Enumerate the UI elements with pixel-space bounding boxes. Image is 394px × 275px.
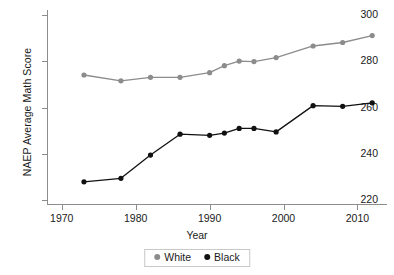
legend-marker-dot-icon [154,254,160,260]
y-tick-label-260: 260 [344,101,378,113]
y-axis-line [47,10,48,205]
x-tick-mark [284,205,285,210]
x-tick-mark [62,205,63,210]
y-tick-mark [42,200,47,201]
x-axis-line [47,204,387,205]
legend-item-white[interactable]: White [154,252,191,263]
plot-area: 220240260280300 19701980199020002010 [47,10,387,205]
y-axis-label: NAEP Average Math Score [21,17,33,207]
x-tick-label-2010: 2010 [334,212,380,224]
x-tick-label-1990: 1990 [187,212,233,224]
x-tick-mark [136,205,137,210]
y-tick-mark [42,61,47,62]
y-tick-mark [42,15,47,16]
y-tick-label-220: 220 [344,193,378,205]
legend-marker-dot-icon [204,254,210,260]
x-axis-label: Year [0,229,394,241]
y-tick-mark [42,154,47,155]
naep-math-score-line-chart: NAEP Average Math Score 220240260280300 … [0,0,394,275]
chart-legend: WhiteBlack [144,249,250,267]
x-tick-label-1980: 1980 [113,212,159,224]
x-tick-mark [357,205,358,210]
y-tick-mark [42,108,47,109]
y-tick-label-280: 280 [344,54,378,66]
legend-label: White [164,252,191,263]
x-tick-mark [210,205,211,210]
y-tick-label-300: 300 [344,8,378,20]
legend-label: Black [214,252,240,263]
x-tick-label-2000: 2000 [261,212,307,224]
legend-item-black[interactable]: Black [204,252,240,263]
y-tick-label-240: 240 [344,147,378,159]
x-tick-label-1970: 1970 [39,212,85,224]
